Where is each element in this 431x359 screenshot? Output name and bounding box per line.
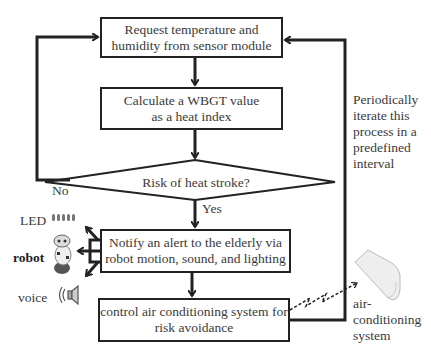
control-ac-box: control air conditioning system forrisk … (98, 298, 290, 342)
led-label: LED (20, 213, 46, 229)
air-conditioner-icon (355, 250, 400, 300)
robot-label: robot (13, 250, 44, 266)
notify-alert-box: Notify an alert to the elderly viarobot … (100, 229, 291, 273)
note-line: predefined (353, 140, 418, 156)
step-text: robot motion, sound, and lighting (105, 251, 286, 267)
no-label: No (52, 183, 69, 199)
note-line: iterate this (353, 108, 418, 124)
step-text: risk avoidance (100, 320, 287, 336)
note-line: interval (353, 156, 418, 172)
periodic-loop-note: Periodically iterate this process in a p… (353, 92, 418, 172)
step-text: Calculate a WBGT value (124, 93, 260, 109)
calculate-wbgt-box: Calculate a WBGT valueas a heat index (100, 87, 283, 130)
step-text: control air conditioning system for (100, 304, 287, 320)
voice-label: voice (18, 290, 47, 306)
no-loop-line (37, 37, 98, 180)
note-line: process in a (353, 124, 418, 140)
step-text: as a heat index (124, 109, 260, 125)
led-icon (52, 214, 75, 221)
device-line: conditioning (353, 312, 421, 328)
wireless-signal (290, 283, 357, 310)
device-line: system (353, 328, 421, 344)
robot-icon (54, 235, 71, 274)
note-line: Periodically (353, 92, 418, 108)
device-line: air- (353, 296, 421, 312)
speaker-icon (60, 286, 79, 304)
yes-label: Yes (202, 201, 222, 217)
step-text: Request temperature and (111, 22, 271, 38)
arrow-to-led (86, 227, 98, 240)
arrow-to-voice (86, 262, 98, 276)
step-text: humidity from sensor module (111, 38, 271, 54)
decision-label: Risk of heat stroke? (140, 175, 252, 191)
request-sensor-data-box: Request temperature andhumidity from sen… (100, 17, 283, 58)
step-text: Notify an alert to the elderly via (105, 235, 286, 251)
ac-device-label: air- conditioning system (353, 296, 421, 344)
